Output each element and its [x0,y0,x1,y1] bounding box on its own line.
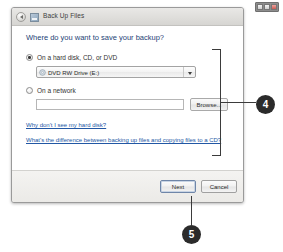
chevron-down-icon [188,72,192,75]
callout-5-leader [191,196,192,225]
back-button[interactable] [16,12,26,22]
backup-wizard-window: Back Up Files Where do you want to save … [11,7,244,203]
radio-hard-disk-label: On a hard disk, CD, or DVD [37,54,117,61]
window-title: Back Up Files [43,12,84,19]
close-button[interactable] [271,4,277,10]
link-why-no-hard-disk[interactable]: Why don't I see my hard disk? [26,122,106,128]
optical-disc-icon [39,69,46,76]
backup-app-icon [30,13,39,22]
back-arrow-icon [20,15,23,19]
minimize-button[interactable] [257,4,263,10]
callout-4-leader [221,102,256,103]
wizard-content: Where do you want to save your backup? O… [12,26,243,171]
link-backup-vs-copy[interactable]: What's the difference between backing up… [26,137,221,143]
browse-button[interactable]: Browse... [190,98,228,111]
callout-badge-4: 4 [256,95,275,114]
drive-select[interactable]: DVD RW Drive (E:) [36,66,196,78]
callout-bracket [212,49,221,156]
title-bar: Back Up Files [12,8,243,26]
drive-select-value: DVD RW Drive (E:) [48,70,99,76]
callout-badge-5: 5 [182,225,201,244]
window-controls[interactable] [255,2,279,12]
radio-network-label: On a network [37,87,76,94]
cancel-button[interactable]: Cancel [201,180,237,193]
next-button[interactable]: Next [160,180,196,193]
page-heading: Where do you want to save your backup? [26,33,164,42]
radio-option-network[interactable]: On a network [26,87,76,94]
radio-network-indicator[interactable] [26,87,33,94]
network-path-input[interactable] [36,99,184,110]
radio-option-hard-disk[interactable]: On a hard disk, CD, or DVD [26,54,117,61]
maximize-button[interactable] [264,4,270,10]
drive-select-arrow-area[interactable] [183,67,195,77]
radio-hard-disk-indicator[interactable] [26,54,33,61]
wizard-footer: Next Cancel [12,171,243,202]
